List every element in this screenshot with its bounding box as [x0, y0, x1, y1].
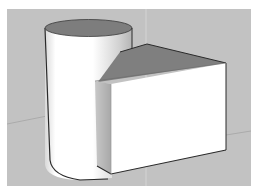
box-side-face	[95, 81, 111, 174]
box[interactable]	[95, 44, 226, 174]
viewport-canvas[interactable]	[0, 0, 259, 194]
cylinder-top-face	[45, 20, 132, 37]
modeling-viewport[interactable]	[0, 0, 259, 194]
